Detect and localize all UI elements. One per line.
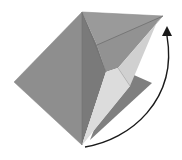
arrowhead-icon xyxy=(162,26,172,36)
origami-figure xyxy=(0,0,182,160)
origami-diagram: Origami model with a flap to be folded u… xyxy=(0,0,182,160)
left-panel xyxy=(14,12,82,145)
